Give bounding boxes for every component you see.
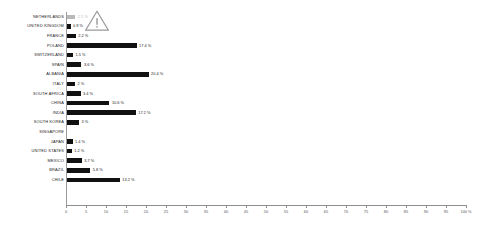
bar-track: 1.2 % [67, 146, 485, 156]
bar-track: 1.4 % [67, 137, 485, 147]
category-label: POLAND [0, 44, 67, 48]
tick-label: 75 [364, 210, 368, 214]
bar [67, 15, 75, 20]
bar-row: JAPAN1.4 % [0, 137, 485, 147]
bar-row: SINGAPORE [0, 127, 485, 137]
bar-value-label: 10.6 % [112, 101, 124, 105]
tick-label: 55 [284, 210, 288, 214]
bar [67, 53, 73, 58]
category-label: SOUTH AFRICA [0, 92, 67, 96]
bar-row: ALBANIA20.4 % [0, 70, 485, 80]
bar [67, 168, 90, 173]
bar-track: 3.4 % [67, 89, 485, 99]
category-label: BRAZIL [0, 168, 67, 172]
bar [67, 101, 109, 106]
category-label: UNITED STATES [0, 149, 67, 153]
bar-track: 20.4 % [67, 70, 485, 80]
bar-value-label: 3.6 % [84, 63, 94, 67]
bar [67, 43, 137, 48]
tick-label: 90 [424, 210, 428, 214]
tick-label: 85 [404, 210, 408, 214]
bar-row: CHINA10.6 % [0, 98, 485, 108]
bar-chart: NETHERLANDS2.1 %UNITED KINGDOM0.9 %FRANC… [0, 0, 485, 235]
category-label: CHINA [0, 101, 67, 105]
bar-track [67, 127, 485, 137]
category-label: INDIA [0, 111, 67, 115]
bar [67, 110, 136, 115]
x-axis-ticks: 0510152025303540455055606570758085909510… [66, 205, 466, 231]
tick-label: 20 [144, 210, 148, 214]
bar [67, 72, 149, 77]
bar [67, 158, 82, 163]
bar-row: UNITED STATES1.2 % [0, 146, 485, 156]
tick-label: 15 [124, 210, 128, 214]
category-label: SINGAPORE [0, 130, 67, 134]
bar-row: POLAND17.4 % [0, 41, 485, 51]
bar-track: 2.2 % [67, 31, 485, 41]
bar-value-label: 1.5 % [76, 53, 86, 57]
bar-track: 17.2 % [67, 108, 485, 118]
bar-row: BRAZIL5.8 % [0, 166, 485, 176]
bar-row: UNITED KINGDOM0.9 % [0, 22, 485, 32]
tick-label: 100 % [460, 210, 471, 214]
bar [67, 34, 76, 39]
bar-value-label: 17.4 % [139, 44, 151, 48]
tick-label: 45 [244, 210, 248, 214]
bar-row: MEXICO3.7 % [0, 156, 485, 166]
tick-label: 10 [104, 210, 108, 214]
bar-track: 3.6 % [67, 60, 485, 70]
bar [67, 120, 79, 125]
bar-row: SOUTH AFRICA3.4 % [0, 89, 485, 99]
bar-value-label: 1.4 % [75, 140, 85, 144]
bar-row: NETHERLANDS2.1 % [0, 12, 485, 22]
tick-label: 0 [65, 210, 67, 214]
tick-label: 40 [224, 210, 228, 214]
bar-track: 3.7 % [67, 156, 485, 166]
category-label: SPAIN [0, 63, 67, 67]
tick-label: 60 [304, 210, 308, 214]
tick-label: 80 [384, 210, 388, 214]
bar-track: 0.9 % [67, 22, 485, 32]
bar-row: SWITZERLAND1.5 % [0, 50, 485, 60]
tick-label: 5 [85, 210, 87, 214]
bar [67, 139, 73, 144]
bar-value-label: 5.8 % [93, 168, 103, 172]
bar-row: INDIA17.2 % [0, 108, 485, 118]
bar-value-label: 1.2 % [74, 149, 84, 153]
category-label: ITALY [0, 82, 67, 86]
warning-triangle-icon [84, 9, 110, 32]
bar-track: 17.4 % [67, 41, 485, 51]
bar-value-label: 3.7 % [84, 159, 94, 163]
bar [67, 82, 75, 87]
category-label: SOUTH KOREA [0, 120, 67, 124]
bar-row: FRANCE2.2 % [0, 31, 485, 41]
category-label: NETHERLANDS [0, 15, 67, 19]
bar-track: 2 % [67, 79, 485, 89]
bar-value-label: 2 % [78, 82, 85, 86]
bar-value-label: 17.2 % [138, 111, 150, 115]
bar-track: 5.8 % [67, 166, 485, 176]
tick-label: 70 [344, 210, 348, 214]
bar [67, 62, 81, 67]
category-label: ALBANIA [0, 72, 67, 76]
bar [67, 91, 81, 96]
bar [67, 149, 72, 154]
category-label: MEXICO [0, 159, 67, 163]
category-label: JAPAN [0, 140, 67, 144]
tick-label: 30 [184, 210, 188, 214]
bar-rows: NETHERLANDS2.1 %UNITED KINGDOM0.9 %FRANC… [0, 12, 485, 185]
bar-track: 13.2 % [67, 175, 485, 185]
bar-value-label: 13.2 % [122, 178, 134, 182]
bar-row: SOUTH KOREA3 % [0, 118, 485, 128]
bar-value-label: 3.4 % [83, 92, 93, 96]
bar-value-label: 0.9 % [73, 24, 83, 28]
bar-track: 3 % [67, 118, 485, 128]
tick-label: 25 [164, 210, 168, 214]
tick-label: 95 [444, 210, 448, 214]
bar-track: 1.5 % [67, 50, 485, 60]
bar-value-label: 3 % [82, 120, 89, 124]
plot-area: NETHERLANDS2.1 %UNITED KINGDOM0.9 %FRANC… [0, 0, 485, 235]
category-label: SWITZERLAND [0, 53, 67, 57]
bar-track: 10.6 % [67, 98, 485, 108]
bar-value-label: 20.4 % [151, 72, 163, 76]
